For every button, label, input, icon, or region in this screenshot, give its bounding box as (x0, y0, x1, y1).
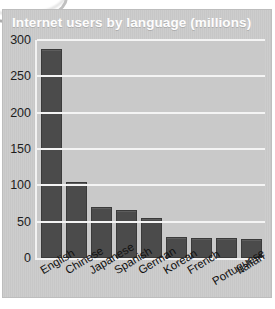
y-tick-label: 300 (10, 33, 31, 47)
chart-figure: Internet users by language (millions) 05… (3, 10, 271, 297)
chart-screenshot: Internet users by language (millions) 05… (0, 0, 275, 309)
y-tick-label: 100 (10, 178, 31, 192)
gridline (37, 148, 265, 150)
gridline (37, 75, 265, 77)
y-tick-label: 200 (10, 106, 31, 120)
gridline (37, 112, 265, 114)
gridline (37, 39, 265, 41)
y-tick-label: 50 (17, 215, 31, 229)
gridline (37, 221, 265, 223)
x-axis-tick-labels: EnglishChineseJapaneseSpanishGermanKorea… (35, 260, 265, 307)
bar (41, 49, 62, 258)
y-axis-tick-labels: 050100150200250300 (3, 40, 31, 260)
y-tick-label: 150 (10, 142, 31, 156)
plot-area (35, 40, 265, 260)
chart-title: Internet users by language (millions) (12, 15, 251, 30)
y-tick-label: 0 (24, 251, 31, 265)
gridline (37, 184, 265, 186)
y-tick-label: 250 (10, 69, 31, 83)
